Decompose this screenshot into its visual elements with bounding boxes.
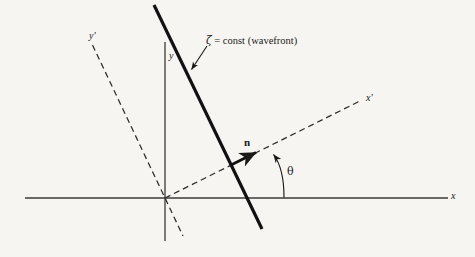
wavefront-leader-line (192, 46, 208, 70)
y-axis-label: y (169, 51, 173, 61)
theta-angle-label: θ (287, 166, 294, 177)
wavefront-label-text: = const (wavefront) (212, 35, 298, 46)
normal-vector-arrow (230, 153, 256, 166)
normal-vector-label: n (244, 137, 250, 148)
y-prime-axis-line (93, 45, 184, 236)
theta-angle-arc (274, 155, 285, 198)
y-prime-axis-label: y' (89, 31, 96, 41)
wavefront-label: ζ = const (wavefront) (206, 35, 297, 47)
x-prime-axis-label: x' (366, 93, 373, 103)
wavefront-diagram-figure: x y x' y' ζ = const (wavefront) n θ (0, 0, 475, 257)
x-axis-label: x (451, 191, 455, 201)
x-prime-axis-line (165, 101, 360, 198)
